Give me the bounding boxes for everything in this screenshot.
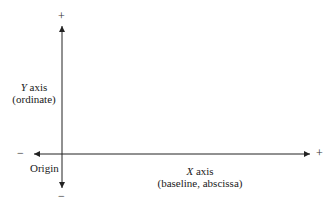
y-axis-label: Y axis (ordinate) [10,81,58,105]
y-positive-sign: + [58,10,65,22]
x-axis-suffix: axis [196,165,214,177]
origin-label: Origin [30,162,59,174]
x-axis-sublabel: (baseline, abscissa) [140,177,260,189]
x-axis-name: X [186,165,193,177]
y-axis-suffix: axis [30,81,48,93]
x-negative-sign: − [17,147,24,159]
x-axis-label: X axis (baseline, abscissa) [140,165,260,189]
y-axis-sublabel: (ordinate) [10,93,58,105]
y-axis-name: Y [21,81,27,93]
y-negative-sign: − [58,190,65,202]
x-positive-sign: + [316,147,323,159]
